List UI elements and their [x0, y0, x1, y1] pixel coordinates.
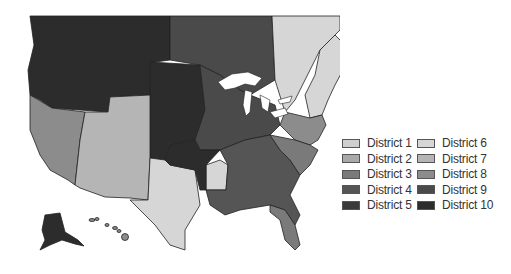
legend-item-district-5: District 5: [342, 198, 417, 213]
region-hawaii: [89, 218, 129, 241]
legend-label: District 6: [442, 136, 487, 150]
legend-item-district-2: District 2: [342, 152, 417, 167]
legend-item-district-4: District 4: [342, 183, 417, 198]
swatch-district-1: [342, 139, 360, 148]
legend: District 1 District 6 District 2 Distric…: [342, 136, 507, 213]
swatch-district-3: [342, 170, 360, 179]
legend-label: District 10: [442, 198, 493, 212]
swatch-district-9: [417, 185, 435, 194]
legend-item-district-1: District 1: [342, 136, 417, 151]
district-map: [0, 0, 340, 274]
legend-label: District 2: [367, 152, 412, 166]
swatch-district-5: [342, 201, 360, 210]
swatch-district-6: [417, 139, 435, 148]
swatch-district-2: [342, 154, 360, 163]
swatch-district-8: [417, 170, 435, 179]
legend-label: District 8: [442, 167, 487, 181]
region-alaska: [40, 213, 84, 250]
swatch-district-7: [417, 154, 435, 163]
legend-label: District 4: [367, 183, 412, 197]
legend-item-district-10: District 10: [417, 198, 507, 213]
legend-item-district-6: District 6: [417, 136, 507, 151]
legend-item-district-9: District 9: [417, 183, 507, 198]
legend-item-district-8: District 8: [417, 167, 507, 182]
legend-label: District 1: [367, 136, 412, 150]
swatch-district-10: [417, 201, 435, 210]
legend-label: District 9: [442, 183, 487, 197]
legend-item-district-3: District 3: [342, 167, 417, 182]
region-arkansas: [206, 160, 228, 190]
swatch-district-4: [342, 185, 360, 194]
legend-item-district-7: District 7: [417, 152, 507, 167]
legend-label: District 3: [367, 167, 412, 181]
legend-label: District 5: [367, 198, 412, 212]
legend-label: District 7: [442, 152, 487, 166]
